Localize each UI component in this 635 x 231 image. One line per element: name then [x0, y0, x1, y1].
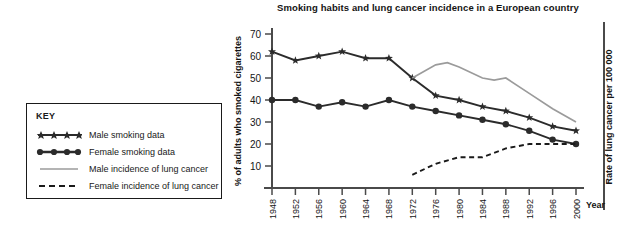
svg-text:1952: 1952: [291, 199, 301, 219]
svg-text:60: 60: [250, 51, 262, 62]
svg-text:1960: 1960: [338, 199, 348, 219]
chart-plot-area: 1020304050607019481952195619601964196819…: [0, 0, 635, 231]
svg-text:40: 40: [250, 95, 262, 106]
chart-svg: 1020304050607019481952195619601964196819…: [0, 0, 635, 231]
chart-series-layer: [268, 47, 580, 174]
svg-text:1964: 1964: [361, 199, 371, 219]
svg-text:1948: 1948: [268, 199, 278, 219]
chart-axes: [264, 22, 604, 210]
svg-text:20: 20: [250, 139, 262, 150]
svg-text:1976: 1976: [431, 199, 441, 219]
svg-text:Year: Year: [586, 200, 606, 210]
svg-text:1980: 1980: [455, 199, 465, 219]
svg-text:30: 30: [250, 117, 262, 128]
svg-text:1984: 1984: [478, 199, 488, 219]
svg-text:2000: 2000: [572, 199, 582, 219]
svg-text:1988: 1988: [501, 199, 511, 219]
svg-text:1956: 1956: [314, 199, 324, 219]
svg-text:10: 10: [250, 161, 262, 172]
svg-text:1968: 1968: [384, 199, 394, 219]
svg-text:70: 70: [250, 29, 262, 40]
svg-text:50: 50: [250, 73, 262, 84]
svg-text:1992: 1992: [525, 199, 535, 219]
svg-text:% of adults who smoked cigaret: % of adults who smoked cigarettes: [233, 36, 243, 186]
svg-text:Rate of lung cancer per 100 00: Rate of lung cancer per 100 000: [604, 49, 614, 184]
svg-text:1972: 1972: [408, 199, 418, 219]
svg-text:1996: 1996: [548, 199, 558, 219]
series-female-incidence-of-lung-cancer: [412, 144, 576, 175]
